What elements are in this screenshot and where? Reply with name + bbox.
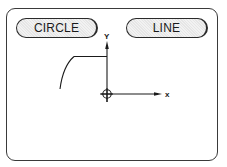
drawing-canvas (0, 0, 227, 167)
x-axis-label: x (165, 90, 169, 99)
x-arrow-icon (154, 92, 162, 95)
origin-crosshair-icon (101, 88, 113, 102)
y-arrow-icon (105, 41, 109, 49)
y-axis-label: Y (104, 32, 109, 41)
drawn-path (60, 57, 107, 90)
